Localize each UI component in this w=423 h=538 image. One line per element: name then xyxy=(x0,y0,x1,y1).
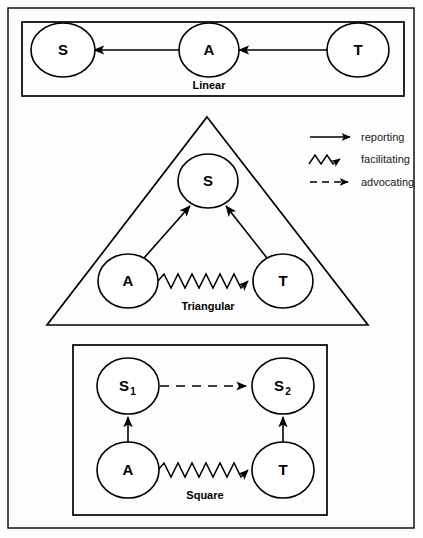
node-sq-s2-subscript: 2 xyxy=(285,386,291,397)
node-sq-s2: S 2 xyxy=(252,358,314,414)
edge-tri-t-to-s xyxy=(226,206,267,258)
node-sq-s2-label: S xyxy=(274,377,284,394)
node-linear-s: S xyxy=(31,23,95,77)
legend: reporting facilitating advocating xyxy=(309,131,414,188)
triangular-panel-border xyxy=(47,117,368,325)
legend-label-facilitating: facilitating xyxy=(361,153,410,165)
facilitating-zigzag-icon xyxy=(309,155,340,164)
triangular-caption: Triangular xyxy=(181,300,235,312)
legend-label-reporting: reporting xyxy=(361,131,404,143)
node-sq-t: T xyxy=(252,442,314,498)
node-tri-s: S xyxy=(178,154,238,208)
edge-sq-a-to-t xyxy=(158,463,248,477)
legend-item-facilitating: facilitating xyxy=(309,153,410,165)
panel-linear: S A T Linear xyxy=(22,22,404,96)
panel-square: S2 (advocating dashed) --> S 1 S 2 A xyxy=(73,345,327,515)
node-linear-a-label: A xyxy=(204,41,215,58)
node-tri-a: A xyxy=(98,254,158,308)
node-sq-t-label: T xyxy=(278,461,287,478)
figure-container: S A T Linear reporting facilitating xyxy=(0,0,423,538)
legend-item-advocating: advocating xyxy=(310,176,414,188)
node-sq-s1-subscript: 1 xyxy=(130,386,136,397)
node-tri-t-label: T xyxy=(278,272,287,289)
node-sq-s1: S 1 xyxy=(97,358,159,414)
node-sq-a-label: A xyxy=(123,461,134,478)
node-sq-s1-label: S xyxy=(119,377,129,394)
relationship-structures-diagram: S A T Linear reporting facilitating xyxy=(0,0,423,538)
node-tri-s-label: S xyxy=(203,172,213,189)
node-sq-a: A xyxy=(97,442,159,498)
linear-caption: Linear xyxy=(192,79,226,91)
node-linear-s-label: S xyxy=(58,41,68,58)
panel-triangular: S A T Triangular xyxy=(47,117,368,325)
edge-tri-a-to-t xyxy=(158,274,248,288)
node-linear-t-label: T xyxy=(353,41,362,58)
node-linear-t: T xyxy=(327,23,389,77)
legend-item-reporting: reporting xyxy=(310,131,404,143)
node-linear-a: A xyxy=(179,23,239,77)
node-tri-a-label: A xyxy=(123,272,134,289)
square-caption: Square xyxy=(186,489,223,501)
edge-tri-a-to-s xyxy=(144,206,190,258)
node-tri-t: T xyxy=(253,254,313,308)
legend-label-advocating: advocating xyxy=(361,176,414,188)
